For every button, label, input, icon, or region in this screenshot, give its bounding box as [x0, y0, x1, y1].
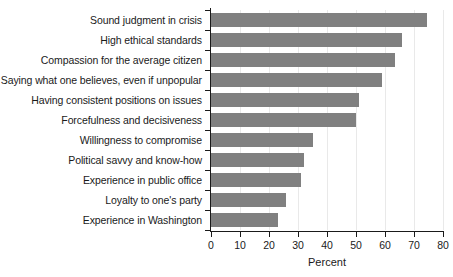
bar: [211, 153, 304, 167]
x-axis-tick: [443, 232, 444, 237]
x-axis-tick-label: 20: [254, 239, 284, 251]
bar: [211, 93, 359, 107]
y-axis-tick: [205, 10, 210, 11]
x-axis-tick-label: 40: [312, 239, 342, 251]
x-axis-tick: [269, 232, 270, 237]
bar: [211, 193, 286, 207]
y-axis-tick: [205, 170, 210, 171]
category-label: Experience in public office: [0, 170, 206, 190]
y-axis-line: [210, 8, 211, 232]
category-label: Compassion for the average citizen: [0, 50, 206, 70]
x-axis-tick-label: 30: [283, 239, 313, 251]
x-axis-title: Percent: [211, 256, 443, 268]
plot-area: [211, 10, 443, 230]
bar: [211, 53, 395, 67]
category-label: Having consistent positions on issues: [0, 90, 206, 110]
y-axis-tick: [205, 210, 210, 211]
x-axis-tick: [298, 232, 299, 237]
x-axis-tick-label: 60: [370, 239, 400, 251]
category-label: Willingness to compromise: [0, 130, 206, 150]
y-axis-tick: [205, 230, 210, 231]
y-axis-tick: [205, 130, 210, 131]
category-axis-labels: Sound judgment in crisisHigh ethical sta…: [0, 10, 206, 230]
x-axis-tick: [240, 232, 241, 237]
x-axis-tick: [414, 232, 415, 237]
category-label: Sound judgment in crisis: [0, 10, 206, 30]
y-axis-tick: [205, 150, 210, 151]
bar: [211, 133, 313, 147]
bar: [211, 113, 356, 127]
bar: [211, 73, 382, 87]
x-axis-tick: [327, 232, 328, 237]
y-axis-tick: [205, 110, 210, 111]
y-axis-tick: [205, 70, 210, 71]
bar: [211, 33, 402, 47]
y-axis-tick: [205, 30, 210, 31]
y-axis-tick: [205, 190, 210, 191]
category-label: Political savvy and know-how: [0, 150, 206, 170]
category-label: Forcefulness and decisiveness: [0, 110, 206, 130]
category-label: Saying what one believes, even if unpopu…: [0, 70, 206, 90]
x-axis-tick: [356, 232, 357, 237]
x-axis-tick-label: 70: [399, 239, 429, 251]
category-label: Experience in Washington: [0, 210, 206, 230]
category-label: High ethical standards: [0, 30, 206, 50]
x-axis-tick-label: 10: [225, 239, 255, 251]
x-axis-tick: [385, 232, 386, 237]
x-axis-tick-label: 0: [196, 239, 226, 251]
gridline: [443, 10, 444, 230]
bar: [211, 213, 278, 227]
category-label: Loyalty to one's party: [0, 190, 206, 210]
y-axis-tick: [205, 90, 210, 91]
y-axis-tick: [205, 50, 210, 51]
x-axis-tick-label: 50: [341, 239, 371, 251]
bar: [211, 173, 301, 187]
bar: [211, 13, 427, 27]
gridline: [414, 10, 415, 230]
x-axis-tick: [211, 232, 212, 237]
x-axis-tick-label: 80: [428, 239, 453, 251]
bar-chart: Sound judgment in crisisHigh ethical sta…: [0, 0, 453, 277]
